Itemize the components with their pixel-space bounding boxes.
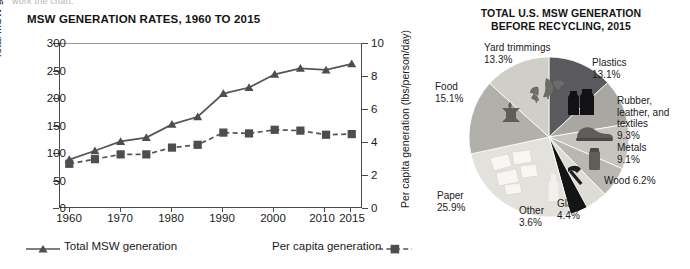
pie-label-rubber-leather-textiles-value: 9.3% [617, 130, 687, 142]
pie-label-wood-value: 6.2% [633, 175, 656, 186]
right-tick-mark [362, 109, 368, 110]
pie-label-wood: Wood 6.2% [604, 175, 656, 187]
pie-label-glass: Glass 4.4% [557, 198, 583, 221]
figure-page: work the chart. MSW GENERATION RATES, 19… [0, 0, 690, 269]
x-tick-label-2015: 2015 [339, 212, 365, 224]
right-tick-label-4: 4 [371, 136, 377, 148]
pie-label-glass-value: 4.4% [557, 210, 583, 222]
pie-title-line1: TOTAL U.S. MSW GENERATION [481, 7, 641, 19]
x-tick-label-2010: 2010 [309, 212, 335, 224]
pie-label-food-value: 15.1% [435, 93, 463, 105]
series-per-capita-line [69, 130, 351, 164]
pie-label-plastics-value: 13.1% [592, 69, 626, 81]
pie-label-metals-name: Metals [617, 142, 646, 153]
legend-marker-total [26, 244, 60, 254]
pie-graphic [468, 56, 630, 218]
x-tick-label-1990: 1990 [209, 212, 235, 224]
pie-label-yard-trimmings-value: 13.3% [484, 54, 551, 66]
pie-label-plastics: Plastics 13.1% [592, 57, 626, 80]
series-total-msw-markers [65, 60, 356, 163]
legend-label-per-capita: Per capita generation [272, 240, 381, 252]
right-tick-label-0: 0 [371, 202, 377, 214]
line-series-layer [59, 43, 362, 208]
right-tick-mark [362, 142, 368, 143]
right-tick-label-10: 10 [371, 37, 384, 49]
right-tick-mark [362, 43, 368, 44]
left-tick-mark [53, 208, 59, 209]
pie-label-yard-trimmings: Yard trimmings 13.3% [484, 42, 551, 65]
pie-label-other-value: 3.6% [519, 217, 544, 229]
line-chart-title: MSW GENERATION RATES, 1960 TO 2015 [27, 13, 260, 25]
right-tick-label-6: 6 [371, 103, 377, 115]
right-tick-mark [362, 208, 368, 209]
pie-label-plastics-name: Plastics [592, 57, 626, 68]
line-chart-panel: MSW GENERATION RATES, 1960 TO 2015 Total… [0, 0, 432, 269]
pie-label-wood-name: Wood [604, 175, 630, 186]
pie-label-rubber-leather-textiles-name: Rubber, leather, and textiles [617, 95, 669, 129]
x-tick-label-1960: 1960 [56, 212, 82, 224]
can-icon [589, 148, 600, 170]
x-tick-label-1980: 1980 [158, 212, 184, 224]
pie-label-other-name: Other [519, 205, 544, 216]
pie-label-food: Food 15.1% [435, 81, 463, 104]
pie-label-rubber-leather-textiles: Rubber, leather, and textiles 9.3% [617, 95, 687, 141]
right-axis-label: Per capita generation (lbs/person/day) [399, 33, 411, 208]
pie-label-metals-value: 9.1% [617, 154, 646, 166]
pie-chart-title: TOTAL U.S. MSW GENERATION BEFORE RECYCLI… [432, 7, 690, 33]
x-tick-label-2000: 2000 [260, 212, 286, 224]
pie-chart-panel: TOTAL U.S. MSW GENERATION BEFORE RECYCLI… [432, 0, 690, 269]
pie-label-metals: Metals 9.1% [617, 142, 646, 165]
right-tick-mark [362, 76, 368, 77]
pie-label-glass-name: Glass [557, 198, 583, 209]
pie-label-other: Other 3.6% [519, 205, 544, 228]
right-tick-label-2: 2 [371, 169, 377, 181]
left-axis-label: Total MSW generation (million tons) [0, 0, 3, 62]
legend-marker-per-capita [378, 244, 412, 254]
right-tick-mark [362, 175, 368, 176]
pie-title-line2: BEFORE RECYCLING, 2015 [491, 20, 631, 32]
right-tick-label-8: 8 [371, 70, 377, 82]
x-tick-label-1970: 1970 [107, 212, 133, 224]
pie-label-paper-value: 25.9% [437, 202, 465, 214]
pie-label-food-name: Food [435, 81, 458, 92]
pie-label-paper: Paper 25.9% [437, 190, 465, 213]
pie-label-yard-trimmings-name: Yard trimmings [484, 42, 551, 53]
series-total-msw-line [69, 64, 351, 160]
pie-label-paper-name: Paper [437, 190, 464, 201]
legend-label-total-msw: Total MSW generation [64, 240, 177, 252]
